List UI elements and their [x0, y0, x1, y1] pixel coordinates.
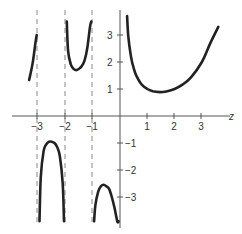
axes	[12, 10, 230, 228]
y-tick-label: 3	[107, 30, 113, 41]
y-tick-label: −2	[125, 165, 137, 176]
gamma-curves	[29, 16, 218, 222]
y-tick-label: −3	[125, 192, 137, 203]
x-tick-label: 1	[144, 121, 150, 132]
curve-branch-3	[94, 185, 119, 223]
x-tick-label: −1	[86, 121, 98, 132]
curve-branch-0	[29, 35, 37, 80]
y-tick-label: −1	[125, 138, 137, 149]
x-tick-label: 3	[198, 121, 204, 132]
x-tick-label: −3	[31, 121, 43, 132]
curve-branch-2	[67, 22, 92, 71]
chart-svg: −3 −2 −1 1 2 3 3 2 1 −1 −2 −3 z	[0, 0, 242, 234]
x-axis-label: z	[228, 111, 234, 122]
x-tick-label: −2	[59, 121, 71, 132]
curve-branch-1	[40, 141, 65, 221]
x-tick-labels: −3 −2 −1 1 2 3	[31, 121, 204, 132]
y-tick-label: 2	[107, 57, 113, 68]
y-tick-label: 1	[107, 84, 113, 95]
curve-branch-4	[127, 16, 218, 92]
gamma-function-chart: −3 −2 −1 1 2 3 3 2 1 −1 −2 −3 z	[0, 0, 242, 234]
x-tick-label: 2	[171, 121, 177, 132]
